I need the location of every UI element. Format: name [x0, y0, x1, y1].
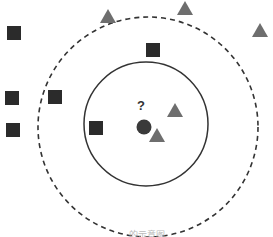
triangle-point — [177, 1, 193, 15]
triangle-point — [167, 103, 183, 117]
triangle-point — [252, 23, 268, 37]
figure-caption: …… 的示意图 — [0, 228, 273, 237]
square-point — [48, 90, 62, 104]
square-point — [6, 123, 20, 137]
knn-diagram: ? — [0, 0, 273, 237]
square-point — [7, 26, 21, 40]
square-point — [5, 91, 19, 105]
query-point — [137, 120, 152, 135]
triangle-point — [100, 9, 116, 23]
square-point — [146, 43, 160, 57]
query-label: ? — [137, 98, 145, 113]
triangle-point — [149, 128, 165, 142]
square-point — [89, 121, 103, 135]
